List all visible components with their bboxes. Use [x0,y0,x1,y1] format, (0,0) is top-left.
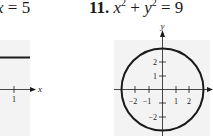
x-tick-label: 2 [187,97,191,106]
left-graph: 1 x [0,40,42,136]
y-tick-label: 1 [153,72,157,81]
y-axis-label: y [160,21,165,31]
left-x-axis-label: x [37,84,42,94]
circle-graph-panel [114,40,210,136]
left-x-axis-arrow-icon [30,87,36,92]
y-tick-label: −2 [148,113,157,122]
left-graph-panel [0,40,30,136]
y-tick-label: 2 [153,58,157,67]
circle-graph: y −2 −1 1 2 2 1 −2 [114,21,213,136]
left-x-tick-label: 1 [12,95,16,104]
x-tick-label: −1 [143,97,152,106]
x-tick-label: −2 [129,97,138,106]
y-axis-arrow-icon [160,30,165,37]
x-tick-label: 1 [174,97,178,106]
graphs: 1 x y −2 −1 1 2 2 1 −2 [0,0,213,136]
